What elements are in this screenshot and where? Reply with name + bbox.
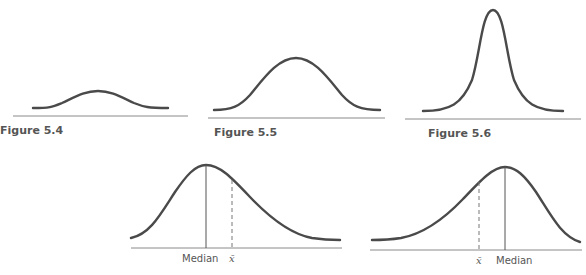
figure-5-6: Figure 5.6 xyxy=(405,10,581,140)
mean-label: x̄ xyxy=(476,255,482,266)
right-skewed-curve xyxy=(131,165,340,240)
median-label: Median xyxy=(496,255,532,266)
figure-5-5: Figure 5.5 xyxy=(208,58,385,139)
figure-negative-skew: x̄ Median xyxy=(370,167,582,266)
normal-bell-curve xyxy=(214,58,380,110)
left-skewed-curve xyxy=(372,167,580,242)
figure-caption: Figure 5.6 xyxy=(428,127,492,140)
figure-positive-skew: Median x̄ xyxy=(131,165,342,264)
median-label: Median xyxy=(182,253,218,264)
distribution-diagrams: Figure 5.4 Figure 5.5 Figure 5.6 Median … xyxy=(0,0,586,275)
peaked-bell-curve xyxy=(423,10,563,111)
figure-caption: Figure 5.4 xyxy=(0,124,64,137)
figure-5-4: Figure 5.4 xyxy=(0,91,188,137)
figure-caption: Figure 5.5 xyxy=(214,126,277,139)
flat-bell-curve xyxy=(33,91,168,108)
mean-label: x̄ xyxy=(229,253,235,264)
